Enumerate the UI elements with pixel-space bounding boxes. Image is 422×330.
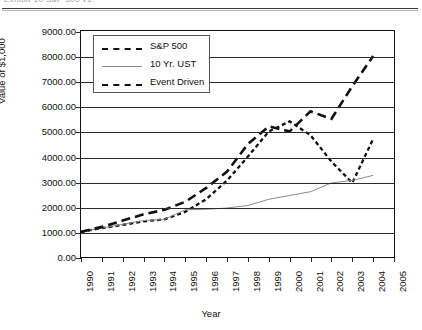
y-axis-tick: [76, 57, 81, 58]
y-axis-tick: [76, 107, 81, 108]
y-axis-tick: [76, 208, 81, 209]
gridline: [81, 107, 394, 108]
x-axis-tick-label: 2002: [334, 271, 345, 292]
x-axis-tick-labels: 1990199119921993199419951996199719981999…: [80, 262, 395, 306]
y-axis-tick-label: 8000.00: [42, 51, 76, 62]
x-axis-tick-label: 1994: [167, 271, 178, 292]
x-axis-tick-label: 1998: [251, 271, 262, 292]
y-axis-tick: [76, 233, 81, 234]
caption-text: Exhibit 10 S&P 500 vs.: [4, 0, 94, 4]
y-axis-tick-label: 1000.00: [42, 226, 76, 237]
y-axis-tick: [76, 183, 81, 184]
gridline: [81, 233, 394, 234]
y-axis-tick-label: 4000.00: [42, 151, 76, 162]
x-axis-tick-label: 2003: [355, 271, 366, 292]
gridline: [81, 132, 394, 133]
gridline: [81, 208, 394, 209]
header-rule: [2, 8, 418, 9]
legend-swatch-ust-icon: [102, 66, 142, 67]
x-axis-tick-label: 1995: [188, 271, 199, 292]
legend-label-ust: 10 Yr. UST: [150, 58, 196, 69]
chart-legend: S&P 500 10 Yr. UST Event Driven: [93, 35, 210, 93]
x-axis-tick-label: 1999: [272, 271, 283, 292]
header-rule-shadow: [2, 10, 418, 11]
x-axis-tick-label: 2001: [314, 271, 325, 292]
legend-label-event-driven: Event Driven: [150, 76, 204, 87]
x-axis-tick-label: 1991: [105, 271, 116, 292]
x-axis-tick-label: 2005: [397, 271, 408, 292]
y-axis-tick-label: 3000.00: [42, 176, 76, 187]
legend-swatch-event-driven-icon: [102, 84, 142, 86]
x-axis-title: Year: [0, 308, 422, 319]
cut-off-caption: Exhibit 10 S&P 500 vs.: [0, 0, 422, 5]
x-axis-tick-label: 1997: [230, 271, 241, 292]
y-axis-tick-label: 6000.00: [42, 101, 76, 112]
x-axis-tick-label: 1993: [147, 271, 158, 292]
chart-page: Exhibit 10 S&P 500 vs. Value of $1,000 0…: [0, 0, 422, 330]
y-axis-tick-label: 5000.00: [42, 126, 76, 137]
legend-item-ust: 10 Yr. UST: [94, 57, 209, 75]
gridline: [81, 158, 394, 159]
legend-item-event-driven: Event Driven: [94, 75, 209, 93]
y-axis-tick-label: 7000.00: [42, 76, 76, 87]
x-axis-tick-label: 1996: [209, 271, 220, 292]
gridline: [81, 183, 394, 184]
y-axis-tick-labels: 0.001000.002000.003000.004000.005000.006…: [0, 30, 76, 258]
legend-swatch-sp500-icon: [102, 48, 142, 50]
x-axis-tick-label: 2000: [293, 271, 304, 292]
y-axis-tick: [76, 158, 81, 159]
x-axis-tick-label: 1992: [126, 271, 137, 292]
y-axis-tick-label: 0.00: [58, 252, 77, 263]
series-line-s-p-500: [81, 121, 373, 231]
x-axis-tick-label: 2004: [376, 271, 387, 292]
x-axis-tick-label: 1990: [84, 271, 95, 292]
legend-item-sp500: S&P 500: [94, 39, 209, 57]
y-axis-tick: [76, 32, 81, 33]
y-axis-tick-label: 2000.00: [42, 201, 76, 212]
y-axis-tick: [76, 82, 81, 83]
y-axis-tick-label: 9000.00: [42, 26, 76, 37]
legend-label-sp500: S&P 500: [150, 40, 187, 51]
y-axis-tick: [76, 132, 81, 133]
